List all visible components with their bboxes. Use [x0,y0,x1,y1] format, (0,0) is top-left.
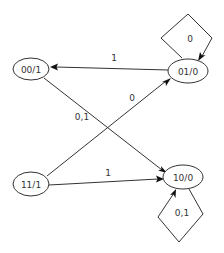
edge-00-to-10: 0,1 [44,78,167,173]
diagram-svg: 1 0 0,1 0 1 0,1 00/1 01/0 11/1 [0,0,224,253]
edge-11-to-10: 1 [49,168,164,185]
edge-line [49,179,158,185]
edge-01-to-00: 1 [50,53,168,71]
edge-label: 1 [105,168,111,178]
edge-label: 0,1 [75,112,89,122]
state-label: 01/0 [178,67,198,77]
state-11[interactable]: 11/1 [13,172,49,196]
state-10[interactable]: 10/0 [163,165,203,189]
edge-label: 0 [187,34,193,44]
edge-line [44,78,162,170]
edge-label: 1 [111,53,117,63]
arrowhead [170,189,176,198]
state-label: 10/0 [173,173,193,183]
edge-11-to-01: 0 [47,78,171,176]
edge-10-self-loop: 0,1 [158,189,203,242]
edge-line [47,81,166,176]
edge-01-self-loop: 0 [161,14,212,61]
state-01[interactable]: 01/0 [168,59,208,83]
edge-line [56,67,168,70]
edge-label: 0,1 [175,208,189,218]
edge-label: 0 [129,93,135,103]
state-00[interactable]: 00/1 [13,58,49,80]
state-diagram: 1 0 0,1 0 1 0,1 00/1 01/0 11/1 [0,0,224,253]
state-label: 00/1 [21,65,41,75]
arrowhead [162,78,171,86]
state-label: 11/1 [21,180,41,190]
arrowhead [198,52,206,61]
